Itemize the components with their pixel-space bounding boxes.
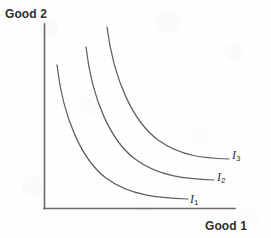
indifference-curve-3	[107, 27, 229, 159]
y-axis-label: Good 2	[5, 7, 47, 21]
curve-label-i3-subscript: 3	[236, 154, 240, 163]
curve-label-i1: I1	[190, 192, 198, 207]
plot-area	[0, 0, 271, 238]
curve-label-i1-subscript: 1	[194, 198, 198, 207]
indifference-curve-figure: Good 2 Good 1 I1 I2 I3	[0, 0, 271, 238]
curve-label-i2-subscript: 2	[221, 176, 225, 185]
x-axis-label: Good 1	[205, 219, 247, 233]
indifference-curve-1	[57, 65, 188, 199]
indifference-curve-2	[86, 47, 214, 180]
curve-label-i2: I2	[217, 170, 225, 185]
curve-label-i3: I3	[232, 148, 240, 163]
